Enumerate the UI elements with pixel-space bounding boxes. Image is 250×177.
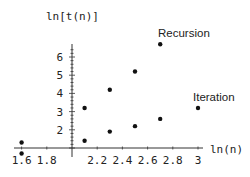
recursion-data-point <box>133 69 137 73</box>
y-axis-label: ln[t(n)] <box>46 10 99 23</box>
x-tick-label: 2.8 <box>163 154 183 167</box>
scatter-chart: 1.61.82.22.42.62.8323456 ln[t(n)] ln(n) … <box>0 0 250 177</box>
x-tick-label: 3 <box>195 154 202 167</box>
x-tick-label: 1.8 <box>37 154 57 167</box>
iteration-data-point <box>196 106 200 110</box>
x-tick-label: 2.6 <box>138 154 158 167</box>
y-tick-label: 5 <box>56 69 63 82</box>
x-tick-label: 2.4 <box>112 154 132 167</box>
iteration-data-point <box>19 151 23 155</box>
x-tick-label: 1.6 <box>12 154 32 167</box>
y-tick-label: 4 <box>56 87 63 100</box>
recursion-data-point <box>108 88 112 92</box>
data-points <box>19 42 200 156</box>
recursion-series-label: Recursion <box>158 27 210 39</box>
iteration-data-point <box>133 124 137 128</box>
y-tick-label: 2 <box>56 124 63 137</box>
y-tick-label: 3 <box>56 106 63 119</box>
recursion-data-point <box>19 140 23 144</box>
recursion-data-point <box>82 106 86 110</box>
iteration-series-label: Iteration <box>193 91 235 103</box>
x-axis-label: ln(n) <box>210 143 243 156</box>
axes <box>14 44 203 157</box>
iteration-data-point <box>108 129 112 133</box>
recursion-data-point <box>158 42 162 46</box>
y-tick-label: 6 <box>56 51 63 64</box>
iteration-data-point <box>82 139 86 143</box>
x-tick-label: 2.2 <box>87 154 107 167</box>
ticks: 1.61.82.22.42.62.8323456 <box>12 50 202 167</box>
iteration-data-point <box>158 117 162 121</box>
